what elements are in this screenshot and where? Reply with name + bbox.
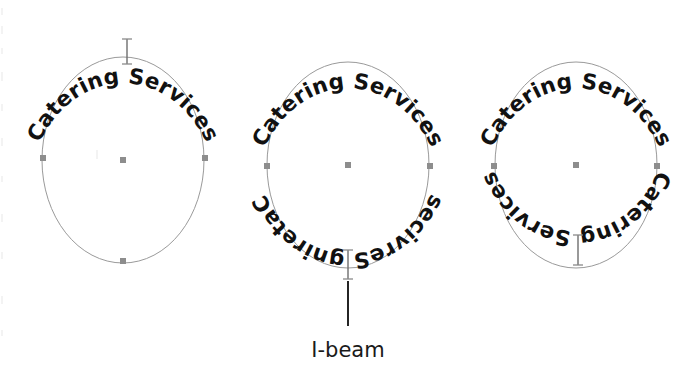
node-right[interactable]: [202, 155, 208, 161]
node-right[interactable]: [427, 163, 433, 169]
ellipse-3-bottom-textpath: Catering Services: [476, 168, 677, 251]
ibeam-callout: I-beam: [311, 281, 384, 362]
node-center[interactable]: [345, 162, 351, 168]
ellipse-3-group[interactable]: Catering Services Catering Services: [475, 62, 678, 268]
node-center[interactable]: [573, 162, 579, 168]
ellipse-3-nodes[interactable]: [491, 162, 660, 169]
illustration-canvas: Catering Services Catering Services: [0, 0, 696, 377]
ellipse-3-bottom-text-upright[interactable]: Catering Services: [476, 168, 677, 251]
ellipse-1-top-textpath: Catering Services: [22, 63, 225, 145]
ellipse-2-top-textpath: Catering Services: [247, 68, 450, 150]
ellipse-2-nodes[interactable]: [264, 162, 433, 169]
ellipse-2-group[interactable]: Catering Services Catering Services: [247, 62, 450, 279]
ellipse-1-top-text[interactable]: Catering Services: [22, 63, 225, 145]
node-left[interactable]: [491, 163, 497, 169]
ellipse-1-group[interactable]: Catering Services: [22, 39, 225, 264]
node-center[interactable]: [120, 157, 126, 163]
ellipse-2-top-text[interactable]: Catering Services: [247, 68, 450, 150]
node-left[interactable]: [264, 163, 270, 169]
node-bottom[interactable]: [120, 258, 126, 264]
ellipses-and-text-layer: Catering Services Catering Services: [0, 0, 696, 377]
ibeam-callout-label: I-beam: [311, 338, 384, 362]
ellipse-1-nodes[interactable]: [40, 155, 208, 264]
ellipse-3-top-text[interactable]: Catering Services: [475, 68, 678, 150]
scan-edge-artifacts: [1, 8, 98, 336]
ellipse-1-ibeam-cursor[interactable]: [122, 39, 132, 64]
node-left[interactable]: [40, 155, 46, 161]
ellipse-3-top-textpath: Catering Services: [475, 68, 678, 150]
node-right[interactable]: [654, 163, 660, 169]
